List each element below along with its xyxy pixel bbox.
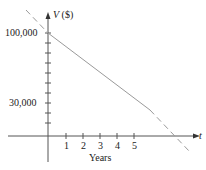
y-axis-arrow-icon [46,12,51,19]
y-axis-label: V ($) [53,10,73,20]
x-axis-title: Years [89,153,111,163]
x-tick-label-5: 5 [132,141,137,151]
depreciation-chart [0,0,206,170]
y-tick-label-30000: 30,000 [9,98,37,108]
x-tick-label-1: 1 [64,141,69,151]
y-tick-label-100000: 100,000 [5,28,38,38]
x-tick-label-2: 2 [81,141,86,151]
y-axis-unit: ($) [59,9,73,20]
value-line-dashed-right [150,110,190,152]
value-line-solid [48,33,150,110]
x-axis-symbol: t [199,131,202,141]
x-tick-label-3: 3 [98,141,103,151]
x-tick-label-4: 4 [115,141,120,151]
